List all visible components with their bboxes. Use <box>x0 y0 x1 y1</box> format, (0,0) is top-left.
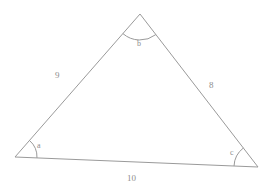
angle-label-a: a <box>37 142 41 150</box>
angle-label-b: b <box>137 40 141 48</box>
angle-label-c: c <box>230 149 234 157</box>
triangle-side-left <box>15 14 140 157</box>
triangle-figure: 9 8 10 a b c <box>0 0 273 188</box>
angle-arc-c <box>234 148 243 166</box>
triangle-drawing <box>0 0 273 188</box>
triangle-side-base <box>15 157 258 167</box>
side-length-label-left: 9 <box>55 71 60 80</box>
side-length-label-base: 10 <box>127 174 136 183</box>
angle-arc-a <box>29 140 37 157</box>
side-length-label-right: 8 <box>209 81 214 90</box>
triangle-side-right <box>140 14 258 167</box>
